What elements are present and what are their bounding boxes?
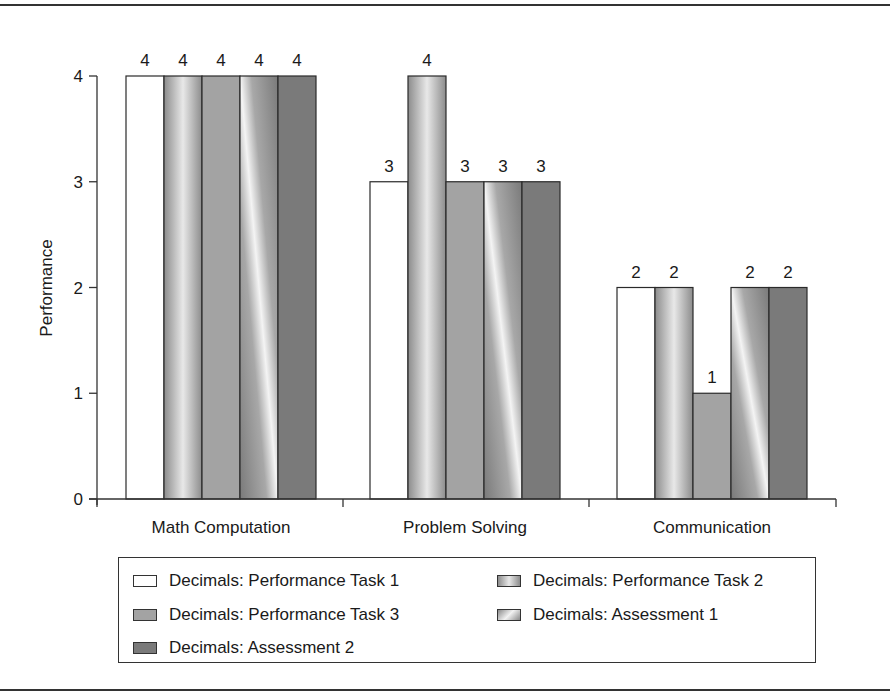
bar (769, 288, 807, 500)
chart-legend: Decimals: Performance Task 1 Decimals: P… (118, 557, 816, 663)
bars-layer: 444443433322122 (126, 51, 807, 499)
bar (446, 182, 484, 499)
data-label: 3 (536, 157, 545, 176)
legend-swatch-white (133, 575, 157, 587)
legend-item-assess1: Decimals: Assessment 1 (497, 604, 718, 626)
x-tick-label: Communication (653, 518, 771, 537)
y-tick-label: 2 (74, 279, 83, 298)
y-axis-label: Performance (37, 239, 56, 336)
bar (522, 182, 560, 499)
legend-label: Decimals: Assessment 2 (169, 638, 354, 658)
y-tick-label: 1 (74, 384, 83, 403)
legend-swatch-vertical-gradient (497, 575, 521, 587)
y-tick-label: 0 (74, 490, 83, 509)
data-label: 4 (178, 51, 187, 70)
y-tick-label: 4 (74, 67, 83, 86)
bar (408, 76, 446, 499)
legend-swatch-medium-gray (133, 609, 157, 621)
bar (278, 76, 316, 499)
bar (202, 76, 240, 499)
legend-label: Decimals: Performance Task 1 (169, 571, 399, 591)
data-label: 3 (460, 157, 469, 176)
data-label: 4 (292, 51, 301, 70)
legend-label: Decimals: Assessment 1 (533, 605, 718, 625)
legend-item-assess2: Decimals: Assessment 2 (133, 637, 354, 659)
data-label: 4 (422, 51, 431, 70)
data-label: 3 (384, 157, 393, 176)
legend-item-task3: Decimals: Performance Task 3 (133, 604, 399, 626)
legend-item-task2: Decimals: Performance Task 2 (497, 570, 763, 592)
data-label: 3 (498, 157, 507, 176)
data-label: 4 (254, 51, 263, 70)
data-label: 2 (783, 263, 792, 282)
bar (240, 76, 278, 499)
bottom-rule (0, 689, 890, 691)
bar (164, 76, 202, 499)
bar (617, 288, 655, 500)
bar (484, 182, 522, 499)
data-label: 2 (745, 263, 754, 282)
legend-swatch-dark-gray (133, 642, 157, 654)
data-label: 1 (707, 368, 716, 387)
y-tick-label: 3 (74, 173, 83, 192)
legend-item-task1: Decimals: Performance Task 1 (133, 570, 399, 592)
bar (655, 288, 693, 500)
legend-label: Decimals: Performance Task 2 (533, 571, 763, 591)
x-tick-label: Math Computation (152, 518, 291, 537)
bar (731, 288, 769, 500)
legend-swatch-diagonal-gradient (497, 609, 521, 621)
data-label: 2 (669, 263, 678, 282)
bar (126, 76, 164, 499)
legend-label: Decimals: Performance Task 3 (169, 605, 399, 625)
data-label: 4 (140, 51, 149, 70)
bar (370, 182, 408, 499)
x-tick-label: Problem Solving (403, 518, 527, 537)
data-label: 2 (631, 263, 640, 282)
bar (693, 393, 731, 499)
data-label: 4 (216, 51, 225, 70)
